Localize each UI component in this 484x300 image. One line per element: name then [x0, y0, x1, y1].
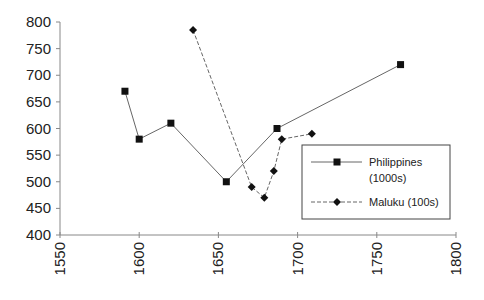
legend-label: Maluku (100s)	[369, 196, 439, 208]
y-tick-label: 700	[26, 66, 51, 83]
legend-label: (1000s)	[369, 172, 406, 184]
x-tick-label: 1550	[51, 242, 68, 275]
line-chart: 4004505005506006507007508001550160016501…	[0, 0, 484, 300]
x-tick-label: 1650	[209, 242, 226, 275]
square-marker	[167, 120, 174, 127]
x-tick-label: 1800	[447, 242, 464, 275]
y-tick-label: 450	[26, 199, 51, 216]
y-tick-label: 400	[26, 226, 51, 243]
square-marker	[223, 178, 230, 185]
series-line	[193, 30, 312, 198]
axes: 4004505005506006507007508001550160016501…	[26, 13, 464, 275]
square-marker	[334, 159, 341, 166]
y-tick-label: 600	[26, 120, 51, 137]
x-tick-label: 1700	[289, 242, 306, 275]
y-tick-label: 650	[26, 93, 51, 110]
square-marker	[397, 61, 404, 68]
diamond-marker	[308, 130, 316, 138]
square-marker	[274, 125, 281, 132]
y-tick-label: 550	[26, 146, 51, 163]
y-tick-label: 750	[26, 40, 51, 57]
x-tick-label: 1750	[368, 242, 385, 275]
diamond-marker	[189, 26, 197, 34]
legend: Philippines(1000s)Maluku (100s)	[302, 145, 450, 219]
square-marker	[121, 88, 128, 95]
legend-label: Philippines	[369, 156, 423, 168]
series-maluku	[189, 26, 316, 202]
diamond-marker	[278, 135, 286, 143]
x-tick-label: 1600	[130, 242, 147, 275]
y-tick-label: 800	[26, 13, 51, 30]
square-marker	[136, 136, 143, 143]
diamond-marker	[270, 167, 278, 175]
y-tick-label: 500	[26, 173, 51, 190]
